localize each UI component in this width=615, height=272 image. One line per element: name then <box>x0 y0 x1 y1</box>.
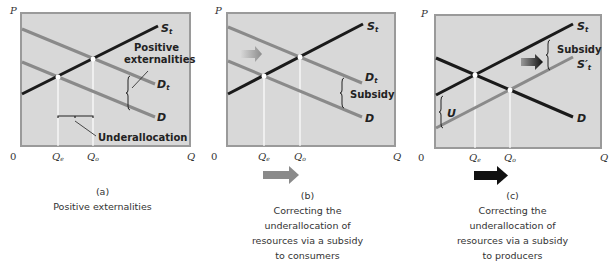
caption-letter: (c) <box>410 188 615 203</box>
q-axis-label: Q <box>187 151 195 162</box>
quantity-shift-arrow-icon <box>497 166 508 185</box>
equilibrium-point-o <box>508 88 513 93</box>
caption-line: Positive externalities <box>0 199 205 214</box>
equilibrium-point-o <box>91 57 96 62</box>
caption-line: Correcting the <box>205 203 410 218</box>
caption-line: underallocation of <box>410 218 615 233</box>
caption-line: resources via a subsidy <box>205 233 410 248</box>
equilibrium-point-e <box>473 73 478 78</box>
p-axis-label: P <box>214 5 222 16</box>
caption-c: (c) Correcting the underallocation of re… <box>410 188 615 263</box>
quantity-shift-arrow-body <box>263 171 290 179</box>
panel-a: P 0 Q Qe Qo St Dt D Positive externaliti… <box>0 0 205 272</box>
origin-label: 0 <box>10 151 16 162</box>
demand-label: D <box>157 111 166 124</box>
equilibrium-point-o <box>298 55 303 60</box>
qo-tick-label: Qo <box>294 151 306 162</box>
origin-label: 0 <box>211 151 217 162</box>
quantity-shift-arrow-icon <box>289 166 299 184</box>
caption-line: to producers <box>410 248 615 263</box>
externalities-label-line1: Positive <box>134 42 179 53</box>
qo-tick-label: Qo <box>87 151 99 162</box>
q-axis-label: Q <box>393 151 401 162</box>
demand-label: D <box>365 112 374 125</box>
graph-a: P 0 Q Qe Qo St Dt D Positive externaliti… <box>0 0 205 170</box>
subsidy-label: Subsidy <box>557 44 602 55</box>
quantity-shift-arrow-body <box>474 171 498 180</box>
caption-line: resources via a subsidy <box>410 233 615 248</box>
qe-tick-label: Qe <box>469 152 481 163</box>
panel-b: P 0 Q Qe Qo St Dt D Subsidy (b) Correcti… <box>205 0 410 272</box>
origin-label: 0 <box>418 152 424 163</box>
qo-tick-label: Qo <box>504 152 516 163</box>
externalities-label-line2: externalities <box>124 54 195 65</box>
equilibrium-point-e <box>262 74 267 79</box>
subsidy-label: Subsidy <box>350 89 395 100</box>
demand-label: D <box>577 112 586 125</box>
caption-line: Correcting the <box>410 203 615 218</box>
underallocation-label: Underallocation <box>98 132 187 143</box>
u-label: U <box>447 107 456 120</box>
panel-c: P 0 Q Qe Qo St S′t D Subsidy U (c) Corre… <box>410 0 615 272</box>
equilibrium-point-e <box>56 75 61 80</box>
caption-b: (b) Correcting the underallocation of re… <box>205 188 410 263</box>
caption-line: to consumers <box>205 248 410 263</box>
caption-letter: (a) <box>0 184 205 199</box>
p-axis-label: P <box>420 8 428 19</box>
p-axis-label: P <box>9 5 17 16</box>
caption-a: (a) Positive externalities <box>0 184 205 214</box>
caption-letter: (b) <box>205 188 410 203</box>
q-axis-label: Q <box>600 152 608 163</box>
qe-tick-label: Qe <box>52 151 64 162</box>
caption-line: underallocation of <box>205 218 410 233</box>
qe-tick-label: Qe <box>258 151 270 162</box>
